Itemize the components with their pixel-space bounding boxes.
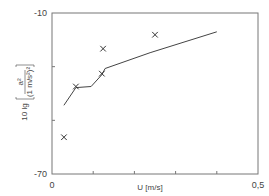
x-marker-icon bbox=[61, 134, 67, 140]
x-marker-icon bbox=[99, 71, 105, 77]
x-axis-label: U [m/s] bbox=[137, 183, 162, 192]
y-tick-label-bottom: -70 bbox=[34, 169, 47, 179]
chart: -10 -70 0 0,5 U [m/s] 10 lg a² (1 m/s²)² bbox=[0, 0, 269, 196]
x-tick-label-left: 0 bbox=[49, 180, 54, 190]
data-markers bbox=[61, 32, 158, 140]
y-tick-label-top: -10 bbox=[34, 8, 47, 18]
y-axis-label-denominator: (1 m/s²)² bbox=[25, 67, 34, 98]
x-marker-icon bbox=[100, 46, 106, 52]
x-marker-icon bbox=[152, 32, 158, 38]
y-axis-label: 10 lg a² (1 m/s²)² bbox=[16, 65, 34, 121]
plot-frame bbox=[52, 13, 258, 174]
y-axis-label-prefix: 10 lg bbox=[20, 103, 29, 120]
y-axis-label-numerator: a² bbox=[16, 78, 25, 85]
data-line bbox=[64, 32, 217, 106]
x-tick-label-right: 0,5 bbox=[252, 180, 265, 190]
